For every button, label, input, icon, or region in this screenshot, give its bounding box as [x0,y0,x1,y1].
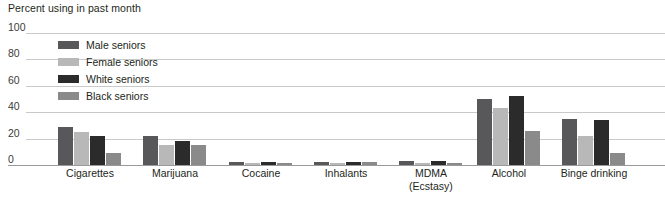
bar [562,119,577,165]
bar [90,136,105,165]
x-axis-label-line1: MDMA [415,167,447,179]
x-axis-label-line1: Marijuana [152,167,198,179]
bar [431,161,446,165]
bar-chart: Percent using in past month 020406080100… [0,0,665,204]
x-axis-label-line1: Cigarettes [66,167,114,179]
bar [74,132,89,165]
legend-label: Male seniors [86,39,146,51]
bar [175,141,190,165]
bar [610,153,625,165]
bar [594,120,609,165]
bar [399,161,414,165]
bar [578,136,593,165]
bar [58,127,73,165]
bar [447,163,462,165]
bar [509,96,524,165]
legend-item[interactable]: Black seniors [58,87,188,104]
bar [261,162,276,165]
bar [143,136,158,165]
legend-item[interactable]: White seniors [58,70,188,87]
legend-swatch-icon [58,58,79,66]
bar [277,163,292,165]
legend-label: Black seniors [86,90,148,102]
bar [229,162,244,165]
x-axis-category-labels: CigarettesMarijuanaCocaineInhalantsMDMA(… [0,167,665,204]
bar [362,162,377,165]
bar [191,145,206,165]
bar [493,108,508,165]
legend-label: Female seniors [86,56,158,68]
bar [330,163,345,165]
bar [346,162,361,165]
bar-group [477,33,541,165]
legend-item[interactable]: Female seniors [58,53,188,70]
bar [159,145,174,165]
x-axis-label-line1: Binge drinking [561,167,628,179]
chart-title: Percent using in past month [8,2,141,14]
x-axis-label-line1: Cocaine [242,167,281,179]
legend-swatch-icon [58,41,79,49]
bar [525,131,540,165]
bar [477,99,492,165]
x-axis-label-line2: (Ecstasy) [371,180,491,193]
legend-label: White seniors [86,73,150,85]
bar-group [314,33,378,165]
bar [245,163,260,165]
bar-group [399,33,463,165]
bar-group [562,33,626,165]
bar [415,163,430,165]
axis-baseline [8,165,665,166]
legend-swatch-icon [58,92,79,100]
bar-group [229,33,293,165]
bar [106,153,121,165]
legend-item[interactable]: Male seniors [58,36,188,53]
legend-swatch-icon [58,75,79,83]
bar [314,162,329,165]
x-axis-label-line1: Alcohol [492,167,526,179]
x-axis-label: Binge drinking [534,167,654,180]
y-tick-label-100: 100 [8,22,30,33]
chart-legend: Male seniorsFemale seniorsWhite seniorsB… [58,36,188,104]
x-axis-label-line1: Inhalants [325,167,368,179]
